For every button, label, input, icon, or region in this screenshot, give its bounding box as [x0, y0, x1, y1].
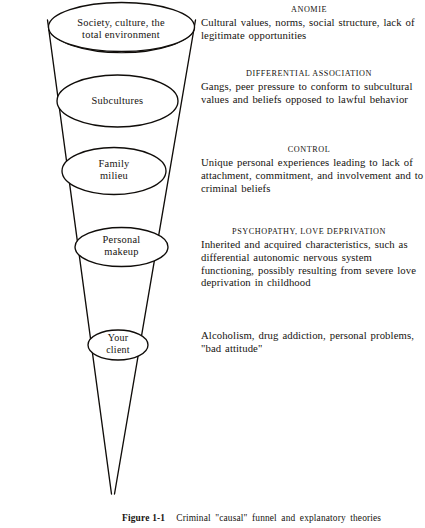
- funnel-svg: [0, 0, 210, 505]
- theory-body-client-problems: Alcoholism, drug addiction, personal pro…: [201, 329, 425, 355]
- theory-block-psychopathy: PSYCHOPATHY, LOVE DEPRIVATION Inherited …: [201, 226, 425, 289]
- figure-caption: Figure 1-1Criminal "causal" funnel and e…: [122, 512, 422, 524]
- funnel-ring-personal: [75, 228, 168, 267]
- theory-heading-control: CONTROL: [201, 144, 425, 155]
- causal-funnel-diagram: Society, culture, the total environment …: [0, 0, 210, 505]
- theory-body-psychopathy: Inherited and acquired characteristics, …: [201, 238, 425, 289]
- funnel-ring-family: [62, 148, 166, 195]
- figure-caption-text: Criminal "causal" funnel and explanatory…: [176, 513, 381, 523]
- theory-heading-anomie: ANOMIE: [201, 4, 425, 15]
- funnel-ring-society: [49, 3, 195, 52]
- theory-body-anomie: Cultural values, norms, social structure…: [201, 16, 425, 42]
- theory-block-control: CONTROL Unique personal experiences lead…: [201, 144, 425, 194]
- theory-block-anomie: ANOMIE Cultural values, norms, social st…: [201, 4, 425, 42]
- figure-page: Society, culture, the total environment …: [0, 0, 425, 528]
- figure-caption-number: Figure 1-1: [122, 513, 165, 523]
- theory-body-control: Unique personal experiences leading to l…: [201, 156, 425, 194]
- theory-block-differential-association: DIFFERENTIAL ASSOCIATION Gangs, peer pre…: [201, 68, 425, 106]
- funnel-ring-client: [88, 330, 148, 360]
- theory-body-differential-association: Gangs, peer pressure to conform to subcu…: [201, 80, 425, 106]
- theory-block-client-problems: Alcoholism, drug addiction, personal pro…: [201, 329, 425, 355]
- theory-heading-psychopathy: PSYCHOPATHY, LOVE DEPRIVATION: [201, 226, 425, 237]
- funnel-ring-subcultures: [57, 75, 178, 127]
- theory-heading-differential-association: DIFFERENTIAL ASSOCIATION: [201, 68, 425, 79]
